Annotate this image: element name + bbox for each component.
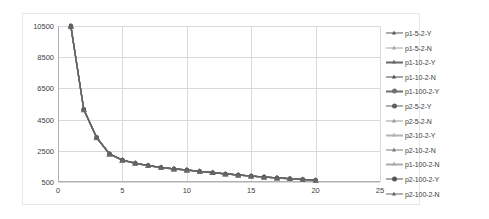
legend-swatch-icon <box>386 73 403 80</box>
legend-label: p1-10-2-Y <box>405 59 435 66</box>
series-p1-10-2-Y <box>68 23 318 182</box>
series-line <box>71 26 316 180</box>
legend-item-p2-10-2-Y[interactable]: p2-10-2-Y <box>386 132 435 139</box>
y-tick-label: 500 <box>41 178 54 187</box>
legend-label: p2-10-2-Y <box>405 132 435 139</box>
legend-swatch-icon <box>386 117 403 124</box>
legend-swatch-icon <box>386 132 403 139</box>
legend-swatch-icon <box>386 88 403 95</box>
legend-item-p1-5-2-N[interactable]: p1-5-2-N <box>386 44 432 51</box>
y-tick-label: 10500 <box>33 22 54 31</box>
x-tick-label: 0 <box>56 186 60 195</box>
series-p1-5-2-Y <box>68 23 318 182</box>
series-line <box>71 26 316 180</box>
series-plot <box>58 26 380 182</box>
series-p2-10-2-N <box>68 23 318 182</box>
series-line <box>71 26 316 180</box>
legend-item-p1-10-2-Y[interactable]: p1-10-2-Y <box>386 59 435 66</box>
legend-item-p1-100-2-N[interactable]: p1-100-2-N <box>386 161 439 168</box>
legend-label: p1-5-2-N <box>405 44 432 51</box>
legend-item-p2-100-2-Y[interactable]: p2-100-2-Y <box>386 176 439 183</box>
x-tick-label: 25 <box>376 186 384 195</box>
series-p1-100-2-Y <box>69 24 318 183</box>
gridline-y-0 <box>58 182 380 183</box>
x-axis-tick-labels: 0510152025 <box>58 186 380 198</box>
y-axis-tick-labels: 500250045006500850010500 <box>23 26 54 182</box>
legend-item-p2-5-2-N[interactable]: p2-5-2-N <box>386 117 432 124</box>
legend-swatch-icon <box>386 161 403 168</box>
y-tick-label: 8500 <box>37 53 54 62</box>
legend-label: p1-5-2-Y <box>405 30 431 37</box>
series-line <box>71 26 316 180</box>
series-line <box>71 27 316 181</box>
legend-swatch-icon <box>386 59 403 66</box>
legend-swatch-icon <box>386 190 403 197</box>
legend-label: p2-5-2-N <box>405 117 432 124</box>
legend-label: p2-10-2-N <box>405 146 436 153</box>
series-p2-5-2-Y <box>69 24 318 182</box>
series-line <box>71 26 316 180</box>
series-p1-10-2-N <box>68 24 318 183</box>
plot-area <box>58 26 380 182</box>
legend-label: p2-100-2-N <box>405 190 439 197</box>
x-tick-label: 20 <box>311 186 319 195</box>
series-p2-5-2-N <box>68 24 318 183</box>
x-tick-label: 10 <box>183 186 191 195</box>
legend-item-p1-5-2-Y[interactable]: p1-5-2-Y <box>386 30 431 37</box>
y-tick-label: 2500 <box>37 146 54 155</box>
series-line <box>71 26 316 180</box>
x-tick-label: 15 <box>247 186 255 195</box>
legend-swatch-icon <box>386 176 403 183</box>
legend-label: p1-100-2-N <box>405 161 439 168</box>
series-p1-5-2-N <box>68 24 318 183</box>
series-p2-100-2-N <box>68 24 318 183</box>
series-line <box>71 26 316 180</box>
legend-item-p2-10-2-N[interactable]: p2-10-2-N <box>386 146 436 153</box>
legend-label: p2-100-2-Y <box>405 176 439 183</box>
gridline-x-5 <box>380 26 381 182</box>
series-line <box>71 27 316 181</box>
legend-item-p1-100-2-Y[interactable]: p1-100-2-Y <box>386 88 439 95</box>
series-p1-100-2-N <box>68 24 318 183</box>
legend-item-p1-10-2-N[interactable]: p1-10-2-N <box>386 73 436 80</box>
legend-swatch-icon <box>386 146 403 153</box>
series-line <box>71 27 316 180</box>
y-tick-label: 6500 <box>37 84 54 93</box>
legend-swatch-icon <box>386 103 403 110</box>
legend-label: p1-10-2-N <box>405 73 436 80</box>
legend-item-p2-5-2-Y[interactable]: p2-5-2-Y <box>386 103 431 110</box>
legend-label: p1-100-2-Y <box>405 88 439 95</box>
series-line <box>71 27 316 181</box>
chart-container: 500250045006500850010500 0510152025 p1-5… <box>22 13 420 205</box>
chart-legend: p1-5-2-Yp1-5-2-Np1-10-2-Yp1-10-2-Np1-100… <box>386 19 420 201</box>
legend-swatch-icon <box>386 30 403 37</box>
legend-swatch-icon <box>386 44 403 51</box>
legend-item-p2-100-2-N[interactable]: p2-100-2-N <box>386 190 439 197</box>
y-tick-label: 4500 <box>37 115 54 124</box>
x-tick-label: 5 <box>120 186 124 195</box>
series-p2-10-2-Y <box>68 24 318 183</box>
series-line <box>71 26 316 180</box>
series-p2-100-2-Y <box>69 24 318 183</box>
legend-label: p2-5-2-Y <box>405 103 431 110</box>
